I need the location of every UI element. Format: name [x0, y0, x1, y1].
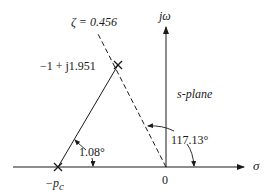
s-plane-label: s-plane [177, 88, 212, 100]
closed-loop-pole-x-marker-icon [114, 61, 122, 69]
compensator-angle-label: 1.08° [79, 146, 105, 158]
compensator-pole-label: −pc [45, 177, 64, 192]
s-plane-title: s-plane [177, 87, 212, 101]
imaginary-axis-label: jω [159, 10, 171, 22]
origin-label: 0 [162, 174, 168, 186]
damping-ratio-line [97, 32, 166, 167]
zeta-symbol: ζ = 0.456 [71, 15, 117, 29]
damping-ratio-label: ζ = 0.456 [71, 16, 117, 28]
compensator-pole-prefix: −p [45, 176, 59, 190]
pole-angle-arrow-upper [148, 126, 174, 131]
pole-angle-arrow-lower [187, 144, 194, 166]
compensator-pole-subscript: c [59, 180, 64, 192]
compensator-angle-arrow-lower [92, 158, 93, 166]
pole-angle-label: 117.13° [171, 134, 208, 146]
s-plane-diagram [0, 0, 273, 196]
real-axis-label: σ [253, 160, 259, 172]
closed-loop-pole-label: −1 + j1.951 [40, 60, 96, 72]
